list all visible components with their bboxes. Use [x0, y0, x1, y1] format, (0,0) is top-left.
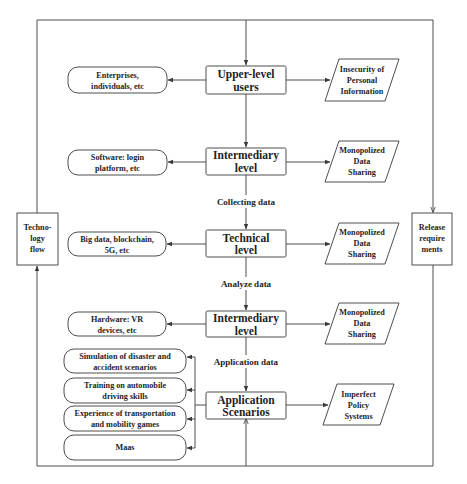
node-technical-level: Technical level: [206, 230, 286, 257]
node-label: Intermediary: [213, 149, 279, 162]
node-label: Monopolized: [339, 308, 385, 317]
node-label: Training on automobile: [84, 381, 167, 390]
node-label: driving skills: [102, 392, 147, 401]
scenario-item-1: Simulation of disaster and accident scen…: [64, 349, 186, 373]
node-label: Technical: [223, 232, 270, 244]
node-intermediary-level-2: Intermediary level: [206, 311, 286, 337]
node-label: users: [233, 81, 259, 93]
node-label: Techno-: [24, 223, 52, 232]
node-label: Simulation of disaster and: [79, 352, 171, 361]
node-label: Sharing: [348, 330, 377, 339]
node-monopolized-2: Monopolized Data Sharing: [325, 223, 399, 264]
node-monopolized-1: Monopolized Data Sharing: [325, 141, 399, 182]
node-label: Release: [419, 223, 446, 232]
node-label: Sharing: [348, 250, 377, 259]
node-label: Systems: [344, 412, 372, 421]
edge-label-collecting-data: Collecting data: [217, 197, 276, 207]
node-label: Monopolized: [339, 228, 385, 237]
flow-diagram: Upper-level users Intermediary level Tec…: [0, 0, 467, 484]
node-label: devices, etc: [97, 326, 136, 335]
node-label: require: [419, 234, 445, 243]
node-label: Intermediary: [213, 312, 279, 325]
edge-label-application-data: Application data: [214, 357, 279, 367]
node-label: Personal: [347, 76, 378, 85]
node-label: Imperfect: [341, 390, 376, 399]
node-label: Data: [354, 157, 371, 166]
node-label: accident scenarios: [93, 363, 156, 372]
node-imperfect-policy: Imperfect Policy Systems: [323, 384, 394, 425]
node-label: individuals, etc: [91, 82, 144, 91]
node-label: Data: [354, 319, 371, 328]
node-label: ments: [422, 245, 443, 254]
node-label: 5G, etc: [105, 246, 130, 255]
node-intermediary-level-1: Intermediary level: [206, 148, 286, 175]
node-label: Enterprises,: [96, 71, 139, 80]
technology-flow-box: Techno- logy flow: [17, 213, 58, 265]
scenario-item-2: Training on automobile driving skills: [64, 378, 186, 403]
node-label: level: [235, 244, 257, 256]
node-hardware: Hardware: VR devices, etc: [68, 312, 166, 336]
node-label: Maas: [115, 443, 134, 452]
node-upper-level-users: Upper-level users: [206, 66, 286, 94]
node-insecurity: Insecurity of Personal Information: [325, 59, 399, 101]
node-label: platform, etc: [95, 164, 140, 173]
scenario-item-4: Maas: [64, 435, 186, 460]
node-application-scenarios: Application Scenarios: [206, 392, 286, 419]
node-enterprises: Enterprises, individuals, etc: [68, 67, 167, 93]
right-arrows: [286, 80, 330, 405]
node-label: Scenarios: [222, 406, 270, 418]
node-label: Monopolized: [339, 146, 385, 155]
node-label: Software: login: [91, 153, 145, 162]
node-label: Hardware: VR: [91, 315, 143, 324]
node-label: flow: [30, 245, 45, 254]
node-label: logy: [30, 234, 45, 243]
edge-label-analyze-data: Analyze data: [221, 279, 272, 289]
node-label: Information: [341, 87, 384, 96]
node-label: Insecurity of: [340, 65, 385, 74]
node-label: and mobility games: [91, 420, 159, 429]
node-label: level: [235, 162, 257, 174]
node-label: Sharing: [348, 168, 377, 177]
node-label: Big data, blockchain,: [80, 235, 154, 244]
node-label: Data: [354, 239, 371, 248]
node-software: Software: login platform, etc: [68, 150, 167, 175]
node-label: level: [235, 325, 257, 337]
node-label: Experience of transportation: [75, 409, 176, 418]
node-bigdata: Big data, blockchain, 5G, etc: [68, 232, 166, 256]
release-requirements-box: Release require ments: [412, 213, 452, 265]
node-label: Upper-level: [217, 68, 274, 81]
scenario-item-3: Experience of transportation and mobilit…: [64, 406, 186, 431]
node-label: Policy: [348, 401, 370, 410]
node-monopolized-3: Monopolized Data Sharing: [325, 303, 399, 344]
